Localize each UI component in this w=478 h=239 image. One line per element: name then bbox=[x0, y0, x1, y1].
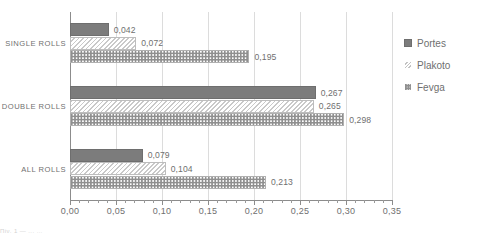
x-tick-label: 0,10 bbox=[153, 206, 171, 216]
bar-value-label: 0,298 bbox=[349, 115, 371, 125]
x-tick-label: 0,20 bbox=[245, 206, 263, 216]
bar-plakoto-all-rolls[interactable] bbox=[70, 162, 166, 175]
legend-item-plakoto[interactable]: Plakoto bbox=[404, 54, 478, 76]
portes-swatch-icon bbox=[404, 39, 412, 47]
bar-fevga-double-rolls[interactable] bbox=[70, 113, 344, 126]
bar-portes-single-rolls[interactable] bbox=[70, 23, 109, 36]
x-tick-minor bbox=[98, 200, 99, 203]
x-tick-major bbox=[208, 200, 209, 205]
bar-portes-double-rolls[interactable] bbox=[70, 86, 316, 99]
x-tick-minor bbox=[88, 200, 89, 203]
x-tick-minor bbox=[190, 200, 191, 203]
x-tick-minor bbox=[153, 200, 154, 203]
bar-value-label: 0,195 bbox=[254, 52, 276, 62]
x-tick-major bbox=[392, 200, 393, 205]
x-tick-minor bbox=[318, 200, 319, 203]
x-tick-label: 0,15 bbox=[199, 206, 217, 216]
bar-chart: 0,000,050,100,150,200,250,300,35 SINGLE … bbox=[0, 0, 478, 239]
x-tick-minor bbox=[199, 200, 200, 203]
x-tick-minor bbox=[355, 200, 356, 203]
x-tick-minor bbox=[226, 200, 227, 203]
bar-value-label: 0,265 bbox=[319, 101, 341, 111]
x-tick-minor bbox=[309, 200, 310, 203]
x-tick-major bbox=[70, 200, 71, 205]
x-tick-major bbox=[300, 200, 301, 205]
x-tick-major bbox=[162, 200, 163, 205]
bar-portes-all-rolls[interactable] bbox=[70, 149, 143, 162]
bar-value-label: 0,042 bbox=[114, 25, 136, 35]
x-tick-minor bbox=[364, 200, 365, 203]
bar-value-label: 0,267 bbox=[321, 88, 343, 98]
category-label-double-rolls: DOUBLE ROLLS bbox=[0, 102, 66, 111]
legend-label-fevga: Fevga bbox=[417, 82, 445, 93]
legend-label-portes: Portes bbox=[417, 38, 446, 49]
x-tick-minor bbox=[236, 200, 237, 203]
x-tick-minor bbox=[383, 200, 384, 203]
x-tick-minor bbox=[180, 200, 181, 203]
x-tick-minor bbox=[374, 200, 375, 203]
x-tick-minor bbox=[79, 200, 80, 203]
x-tick-minor bbox=[171, 200, 172, 203]
x-tick-minor bbox=[272, 200, 273, 203]
x-tick-label: 0,25 bbox=[291, 206, 309, 216]
x-tick-minor bbox=[337, 200, 338, 203]
fevga-swatch-icon bbox=[404, 83, 412, 91]
bar-fevga-all-rolls[interactable] bbox=[70, 176, 266, 189]
x-tick-minor bbox=[134, 200, 135, 203]
x-tick-minor bbox=[291, 200, 292, 203]
x-tick-major bbox=[346, 200, 347, 205]
x-tick-label: 0,30 bbox=[337, 206, 355, 216]
x-tick-minor bbox=[125, 200, 126, 203]
bar-value-label: 0,072 bbox=[141, 38, 163, 48]
gridline bbox=[392, 12, 393, 200]
bottom-artifact-strip: Πίν. 1 — ... … bbox=[0, 228, 478, 239]
x-tick-minor bbox=[282, 200, 283, 203]
gridline bbox=[346, 12, 347, 200]
legend-label-plakoto: Plakoto bbox=[417, 60, 450, 71]
bar-fevga-single-rolls[interactable] bbox=[70, 50, 249, 63]
x-tick-minor bbox=[263, 200, 264, 203]
bar-plakoto-single-rolls[interactable] bbox=[70, 37, 136, 50]
plakoto-swatch-icon bbox=[404, 61, 412, 69]
x-axis-line bbox=[70, 200, 393, 201]
legend-item-fevga[interactable]: Fevga bbox=[404, 76, 478, 98]
x-tick-label: 0,00 bbox=[61, 206, 79, 216]
x-tick-major bbox=[254, 200, 255, 205]
category-label-single-rolls: SINGLE ROLLS bbox=[0, 39, 66, 48]
bar-plakoto-double-rolls[interactable] bbox=[70, 100, 314, 113]
bar-value-label: 0,079 bbox=[148, 150, 170, 160]
x-tick-minor bbox=[107, 200, 108, 203]
x-tick-label: 0,35 bbox=[383, 206, 401, 216]
x-tick-minor bbox=[144, 200, 145, 203]
legend-item-portes[interactable]: Portes bbox=[404, 32, 478, 54]
x-tick-minor bbox=[245, 200, 246, 203]
category-label-all-rolls: ALL ROLLS bbox=[0, 164, 66, 173]
chart-legend: Portes Plakoto Fevga bbox=[404, 32, 478, 98]
bar-value-label: 0,104 bbox=[171, 164, 193, 174]
x-tick-minor bbox=[217, 200, 218, 203]
x-tick-label: 0,05 bbox=[107, 206, 125, 216]
x-tick-major bbox=[116, 200, 117, 205]
bar-value-label: 0,213 bbox=[271, 177, 293, 187]
x-tick-minor bbox=[328, 200, 329, 203]
